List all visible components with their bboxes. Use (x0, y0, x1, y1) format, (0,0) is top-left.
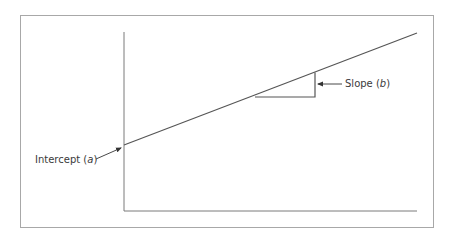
intercept-label: Intercept (a) (35, 154, 97, 166)
diagram-frame (21, 16, 434, 228)
slope-label-prefix: Slope ( (345, 78, 380, 89)
slope-label-suffix: ) (386, 78, 390, 89)
slope-triangle (255, 73, 315, 98)
intercept-arrow (96, 148, 121, 159)
intercept-label-suffix: ) (93, 154, 97, 165)
intercept-label-prefix: Intercept ( (35, 154, 87, 165)
regression-diagram (0, 0, 450, 233)
slope-label: Slope (b) (345, 78, 390, 90)
